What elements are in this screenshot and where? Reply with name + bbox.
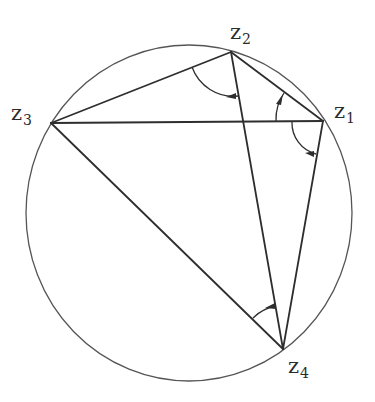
diagram-svg bbox=[0, 0, 375, 402]
label-z3-subscript: 3 bbox=[23, 112, 32, 128]
circumcircle bbox=[26, 45, 352, 381]
label-z2: z2 bbox=[230, 22, 251, 43]
label-z4-letter: z bbox=[288, 354, 299, 378]
segment-z1-z4 bbox=[283, 121, 323, 349]
label-z1-subscript: 1 bbox=[346, 110, 355, 126]
label-z4: z4 bbox=[288, 356, 309, 377]
segment-z3-z4 bbox=[51, 123, 283, 349]
label-z3-letter: z bbox=[11, 101, 22, 125]
label-z2-letter: z bbox=[230, 20, 241, 44]
angle-mark-z1-upper bbox=[276, 93, 284, 121]
arrowhead-z4 bbox=[265, 303, 276, 309]
label-z2-subscript: 2 bbox=[242, 31, 251, 47]
segment-z3-z1 bbox=[51, 121, 323, 123]
label-z4-subscript: 4 bbox=[300, 365, 309, 381]
cyclic-quadrilateral-diagram: z1 z2 z3 z4 bbox=[0, 0, 375, 402]
arrowhead-z1-upper bbox=[276, 94, 283, 105]
label-z1: z1 bbox=[334, 101, 355, 122]
angle-mark-z1-lower bbox=[292, 122, 316, 154]
label-z1-letter: z bbox=[334, 99, 345, 123]
segment-z3-z2 bbox=[51, 52, 231, 123]
angle-mark-z2 bbox=[192, 67, 238, 96]
label-z3: z3 bbox=[11, 103, 32, 124]
